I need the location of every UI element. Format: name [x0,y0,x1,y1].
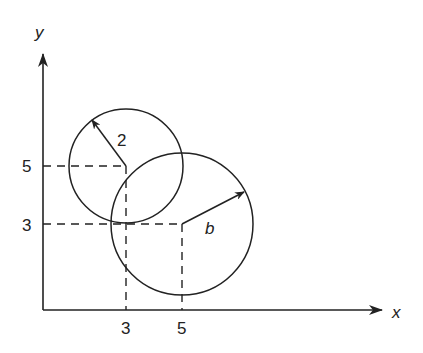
x-axis-label: x [391,303,401,322]
radius-label-large: b [205,219,214,238]
diagram-canvas: y x 5 3 3 5 2 b [0,0,423,353]
x-tick-5: 5 [177,319,186,338]
y-axis-label: y [34,23,45,42]
y-tick-3: 3 [22,216,31,235]
radius-label-small: 2 [117,131,126,150]
y-tick-5: 5 [22,157,31,176]
x-tick-3: 3 [121,319,130,338]
